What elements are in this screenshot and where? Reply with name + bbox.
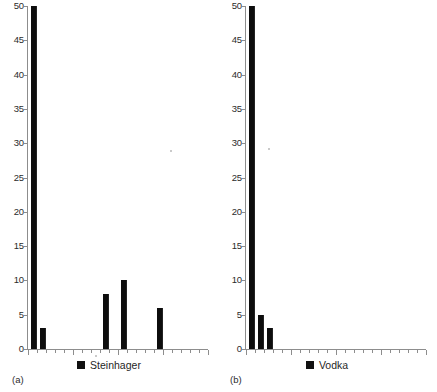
x-tick-mark — [372, 350, 373, 353]
x-tick-mark — [91, 350, 92, 353]
chart-panel-b: 05101520253035404550 Vodka (b) — [218, 0, 436, 392]
x-tick-mark — [282, 350, 283, 353]
x-tick-mark — [246, 350, 247, 355]
legend-label-b: Vodka — [319, 360, 348, 371]
bar — [249, 6, 255, 349]
y-tick-mark — [242, 246, 246, 247]
plot-area-a: 05101520253035404550 — [0, 0, 218, 356]
y-tick-label: 20 — [232, 207, 242, 217]
y-tick-label: 45 — [232, 36, 242, 46]
y-tick-label: 40 — [232, 70, 242, 80]
scan-speck — [343, 363, 345, 365]
x-tick-mark — [327, 350, 328, 353]
y-tick-label: 30 — [232, 138, 242, 148]
y-tick-mark — [242, 178, 246, 179]
x-tick-mark — [55, 350, 56, 353]
x-tick-mark — [354, 350, 355, 353]
y-tick-mark — [242, 315, 246, 316]
y-tick-mark — [24, 109, 28, 110]
x-tick-mark — [100, 350, 101, 353]
x-tick-mark — [163, 350, 164, 355]
y-tick-mark — [24, 246, 28, 247]
y-tick-mark — [242, 143, 246, 144]
bar — [103, 294, 109, 349]
legend-label-a: Steinhager — [90, 360, 141, 371]
bar — [157, 308, 163, 349]
y-tick-mark — [242, 75, 246, 76]
bar — [121, 280, 127, 349]
x-tick-mark — [390, 350, 391, 353]
y-tick-label: 25 — [232, 173, 242, 183]
bar — [31, 6, 37, 349]
scan-speck — [268, 148, 270, 150]
y-tick-mark — [242, 40, 246, 41]
x-tick-mark — [408, 350, 409, 353]
x-tick-mark — [345, 350, 346, 353]
y-tick-mark — [24, 6, 28, 7]
x-tick-mark — [273, 350, 274, 353]
chart-panel-a: 05101520253035404550 Steinhager (a) — [0, 0, 218, 392]
x-tick-mark — [127, 350, 128, 353]
y-tick-mark — [24, 40, 28, 41]
y-tick-label: 15 — [232, 241, 242, 251]
y-tick-label: 10 — [14, 276, 24, 286]
two-panel-bar-chart-figure: 05101520253035404550 Steinhager (a) 0510… — [0, 0, 437, 392]
y-tick-mark — [242, 6, 246, 7]
x-tick-mark — [199, 350, 200, 353]
panel-tag-a: (a) — [12, 375, 24, 385]
y-tick-label: 45 — [14, 36, 24, 46]
x-tick-mark — [154, 350, 155, 353]
bar-series-b — [246, 6, 426, 349]
bar — [40, 328, 46, 349]
x-tick-mark — [417, 350, 418, 353]
x-tick-mark — [363, 350, 364, 353]
x-tick-mark — [109, 350, 110, 353]
x-tick-mark — [145, 350, 146, 353]
x-tick-mark — [336, 350, 337, 355]
y-tick-label: 25 — [14, 173, 24, 183]
legend-b: Vodka — [218, 356, 436, 374]
plot-area-b: 05101520253035404550 — [218, 0, 436, 356]
y-tick-mark — [24, 280, 28, 281]
x-tick-mark — [181, 350, 182, 353]
y-tick-mark — [242, 280, 246, 281]
bar — [258, 315, 264, 349]
legend-a: Steinhager — [0, 356, 218, 374]
x-tick-mark — [64, 350, 65, 353]
x-tick-mark — [28, 350, 29, 355]
y-tick-mark — [242, 109, 246, 110]
x-tick-mark — [318, 350, 319, 353]
x-tick-mark — [264, 350, 265, 353]
square-marker-icon — [306, 361, 314, 369]
y-tick-mark — [24, 212, 28, 213]
y-axis-labels-a: 05101520253035404550 — [0, 0, 24, 356]
y-tick-label: 15 — [14, 241, 24, 251]
x-tick-mark — [37, 350, 38, 353]
x-tick-mark — [172, 350, 173, 353]
y-tick-label: 10 — [232, 276, 242, 286]
x-tick-mark — [426, 350, 427, 355]
x-tick-mark — [82, 350, 83, 353]
scan-speck — [170, 150, 172, 152]
x-tick-mark — [291, 350, 292, 355]
x-tick-mark — [309, 350, 310, 353]
bar-series-a — [28, 6, 208, 349]
square-marker-icon — [77, 361, 85, 369]
y-tick-mark — [24, 178, 28, 179]
y-tick-mark — [242, 212, 246, 213]
y-tick-label: 40 — [14, 70, 24, 80]
y-tick-label: 35 — [232, 104, 242, 114]
y-tick-label: 30 — [14, 138, 24, 148]
panel-tag-b: (b) — [230, 375, 242, 385]
y-tick-label: 35 — [14, 104, 24, 114]
y-tick-label: 50 — [232, 1, 242, 11]
x-tick-mark — [73, 350, 74, 355]
y-axis-labels-b: 05101520253035404550 — [218, 0, 242, 356]
bar — [267, 328, 273, 349]
x-tick-mark — [399, 350, 400, 353]
x-tick-mark — [136, 350, 137, 353]
x-tick-mark — [118, 350, 119, 355]
y-tick-mark — [24, 75, 28, 76]
x-tick-mark — [46, 350, 47, 353]
x-tick-mark — [190, 350, 191, 353]
